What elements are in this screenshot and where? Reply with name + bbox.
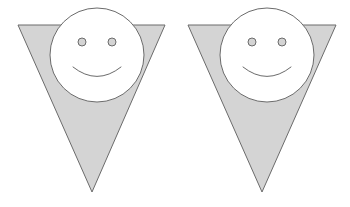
face-circle-left — [50, 8, 144, 102]
figure-canvas-container — [0, 0, 350, 207]
figure-canvas — [0, 0, 350, 207]
left-eye-right-figure — [248, 38, 256, 46]
face-circle-right — [220, 8, 314, 102]
right-eye-left-figure — [108, 38, 116, 46]
left-eye-left-figure — [78, 38, 86, 46]
right-eye-right-figure — [278, 38, 286, 46]
